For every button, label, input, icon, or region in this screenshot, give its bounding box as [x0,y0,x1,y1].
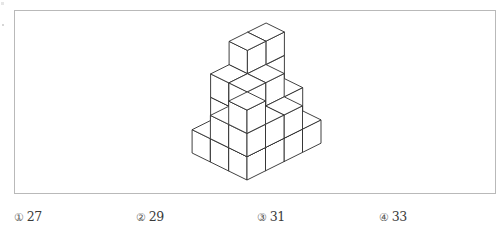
choice-value: 33 [392,209,407,224]
choice-value: 29 [149,209,164,224]
choice-marker: ④ [379,211,389,224]
choice-marker: ② [136,211,146,224]
choice-4[interactable]: ④33 [379,209,407,224]
choice-marker: ③ [257,211,267,224]
choice-value: 31 [270,209,285,224]
choice-value: 27 [27,209,42,224]
choice-marker: ① [14,211,24,224]
choice-1[interactable]: ①27 [14,209,42,224]
cube-stack-figure [0,0,504,239]
answer-choices: ①27 ②29 ③31 ④33 [0,209,504,229]
choice-2[interactable]: ②29 [136,209,164,224]
choice-3[interactable]: ③31 [257,209,285,224]
